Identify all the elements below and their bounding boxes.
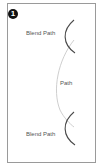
path-diagram (0, 0, 103, 166)
bottom-blend-path-label: Blend Path (26, 131, 55, 137)
top-blend-path-label: Blend Path (26, 30, 55, 36)
bottom-blend-path-curve (65, 112, 75, 145)
top-blend-path-curve (65, 20, 75, 53)
path-label: Path (60, 80, 72, 86)
